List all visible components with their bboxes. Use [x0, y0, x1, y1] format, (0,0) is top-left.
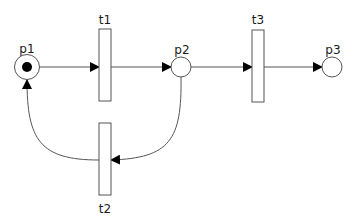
- transition-label-t2: t2: [99, 203, 111, 215]
- place-label-p1: p1: [19, 43, 34, 55]
- place-p3[interactable]: [322, 57, 342, 77]
- transition-label-t1: t1: [99, 14, 111, 26]
- arc-p2-t2[interactable]: [111, 77, 181, 160]
- place-label-p3: p3: [325, 44, 340, 56]
- petri-net-canvas: [0, 0, 358, 222]
- place-p2[interactable]: [171, 57, 191, 77]
- transition-t2[interactable]: [99, 123, 111, 195]
- place-label-p2: p2: [174, 44, 189, 56]
- transition-label-t3: t3: [252, 14, 264, 26]
- place-p1[interactable]: [15, 55, 40, 80]
- transition-t3[interactable]: [252, 30, 264, 102]
- token-icon: [22, 62, 32, 72]
- arc-t2-p1[interactable]: [27, 80, 99, 160]
- transition-t1[interactable]: [99, 29, 111, 101]
